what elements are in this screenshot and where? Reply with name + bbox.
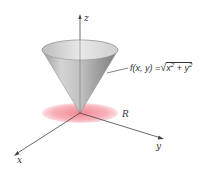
function-formula: f(x, y) =√x2 + y2	[130, 61, 192, 73]
z-axis-arrowhead	[78, 14, 81, 19]
formula-leader-line	[107, 68, 128, 73]
formula-lhs: f(x, y) =	[130, 63, 160, 73]
plus-sign: +	[174, 63, 184, 73]
y-axis	[80, 113, 161, 138]
x-axis-label: x	[17, 155, 22, 165]
y-axis-arrowhead	[158, 136, 164, 140]
exponent-y: 2	[189, 62, 192, 68]
x-axis	[16, 113, 80, 154]
cone-diagram: z x y R	[0, 0, 221, 170]
z-axis-label: z	[83, 13, 89, 23]
y-axis-label: y	[155, 141, 162, 151]
region-label: R	[121, 109, 129, 119]
radicand: x2 + y2	[166, 62, 192, 73]
